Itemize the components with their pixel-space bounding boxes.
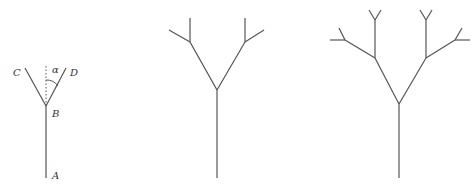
twig (169, 30, 190, 42)
label-alpha: α (52, 64, 59, 75)
branch-left (190, 42, 217, 90)
branch (426, 40, 455, 58)
angle-arc (46, 80, 58, 86)
branch (345, 40, 375, 58)
twig (369, 10, 375, 20)
segment-BC (25, 68, 46, 106)
twig (420, 10, 426, 20)
twig (339, 28, 345, 40)
figure-stage-1 (25, 66, 66, 178)
twig (245, 30, 264, 42)
twig (375, 10, 381, 20)
twig (426, 10, 432, 20)
branch-left (375, 58, 399, 104)
label-C: C (13, 67, 21, 78)
twig (455, 28, 462, 40)
figure-stage-2 (169, 18, 264, 178)
label-D: D (69, 67, 78, 78)
fractal-tree-diagram: C D α B A (0, 0, 476, 188)
label-B: B (51, 108, 59, 119)
label-A: A (51, 170, 59, 181)
branch-right (217, 42, 245, 90)
branch-right (399, 58, 426, 104)
figure-stage-3 (330, 10, 470, 178)
